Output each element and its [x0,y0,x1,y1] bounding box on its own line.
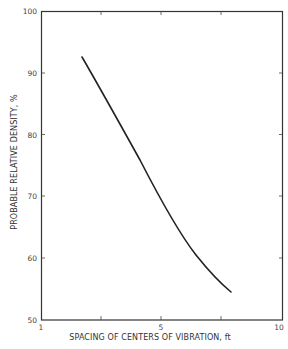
x-ticks [101,12,221,321]
y-tick-80: 80 [27,131,37,140]
y-tick-90: 90 [27,69,37,78]
y-tick-50: 50 [27,316,37,325]
y-ticks [42,73,283,258]
chart: 100 90 80 70 60 50 1 5 10 SPACING OF CEN… [0,0,288,349]
x-tick-1: 1 [39,323,44,332]
x-tick-labels: 1 5 10 [39,323,284,332]
y-tick-60: 60 [27,254,37,263]
y-tick-labels: 100 90 80 70 60 50 [23,7,38,325]
density-curve [82,57,231,292]
plot-frame [42,12,283,321]
y-tick-100: 100 [23,7,38,16]
x-tick-5: 5 [159,323,164,332]
x-tick-10: 10 [274,323,284,332]
y-tick-70: 70 [27,192,37,201]
x-axis-title: SPACING OF CENTERS OF VIBRATION, ft [69,333,230,342]
y-axis-title: PROBABLE RELATIVE DENSITY, % [10,94,19,230]
